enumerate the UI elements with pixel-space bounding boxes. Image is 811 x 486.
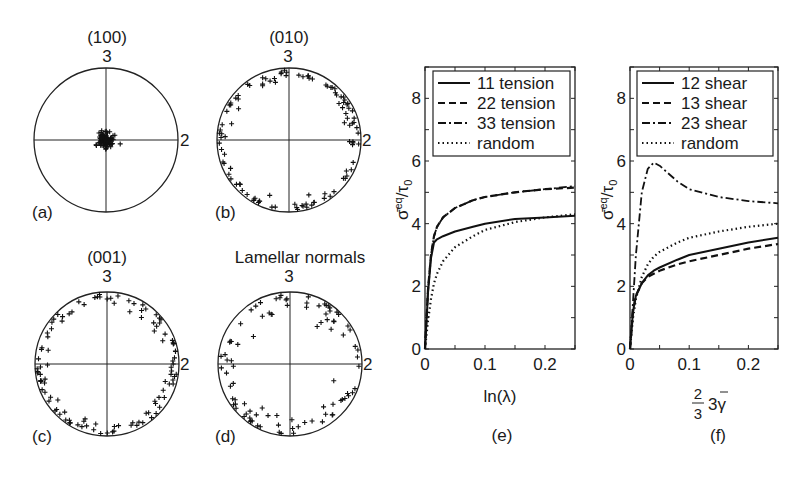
svg-text:2: 2 <box>412 277 421 296</box>
svg-text:0.2: 0.2 <box>533 355 557 374</box>
chart-e: 0246800.10.2 11 tension22 tension33 tens… <box>392 67 575 445</box>
svg-text:0: 0 <box>420 355 429 374</box>
legend-entry: 22 tension <box>477 94 555 113</box>
svg-text:2: 2 <box>617 277 626 296</box>
panel-label-e: (e) <box>492 426 513 445</box>
series-line <box>425 216 575 349</box>
pole-figure-b: (010) 3 2 (b) <box>215 28 371 222</box>
x-axis-label-f: 2 3 3γ <box>692 385 728 422</box>
series-lines-e <box>425 186 575 349</box>
legend-entry: 11 tension <box>477 74 554 93</box>
svg-text:0.1: 0.1 <box>677 355 701 374</box>
legend-entry: random <box>681 134 739 153</box>
y-axis-label-e: σ̄eq/τ0 <box>392 180 414 220</box>
pole-figure-c: (001) 3 2 (c) <box>32 248 189 446</box>
x-axis-label-e: ln(λ) <box>483 387 516 406</box>
y-axis-label-f: σ̄eq/τ0 <box>597 180 619 220</box>
svg-text:0.1: 0.1 <box>473 355 497 374</box>
series-line <box>425 186 575 349</box>
axis-label-2-d: 2 <box>363 355 372 374</box>
svg-text:4: 4 <box>412 215 421 234</box>
legend-entry: random <box>477 134 535 153</box>
pole-title-b: (010) <box>269 28 309 47</box>
chart-f: 0246800.10.2 12 shear13 shear23 shearran… <box>597 67 778 445</box>
pole-figure-d: Lamellar normals 3 2 (d) <box>215 248 372 446</box>
svg-text:6: 6 <box>617 152 626 171</box>
pole-title-a: (100) <box>87 28 127 47</box>
series-line <box>630 163 778 349</box>
svg-text:3γ: 3γ <box>708 395 726 414</box>
series-line <box>630 238 778 349</box>
legend-entry: 23 shear <box>681 114 747 133</box>
axis-label-2-c: 2 <box>180 355 189 374</box>
panel-label-f: (f) <box>710 426 726 445</box>
axis-label-2-b: 2 <box>362 131 371 150</box>
legend-f: 12 shear13 shear23 shearrandom <box>637 71 773 156</box>
legend-entry: 13 shear <box>681 94 747 113</box>
panel-label-c: (c) <box>32 427 52 446</box>
pole-title-c: (001) <box>87 248 127 267</box>
svg-text:6: 6 <box>412 152 421 171</box>
figure-canvas: (100) 3 2 (a) (010) 3 2 (b) (001) 3 2 (c… <box>0 0 811 486</box>
axis-label-3-a: 3 <box>102 47 111 66</box>
panel-label-d: (d) <box>215 427 236 446</box>
svg-text:8: 8 <box>617 89 626 108</box>
axis-label-3-c: 3 <box>102 267 111 286</box>
series-lines-f <box>630 163 778 349</box>
axis-label-2-a: 2 <box>180 131 189 150</box>
axis-label-3-d: 3 <box>284 267 293 286</box>
legend-e: 11 tension22 tension33 tensionrandom <box>433 71 570 156</box>
svg-text:3: 3 <box>694 405 702 422</box>
svg-text:4: 4 <box>617 215 626 234</box>
pole-title-d: Lamellar normals <box>235 248 365 267</box>
svg-text:0: 0 <box>625 355 634 374</box>
series-line <box>630 224 778 349</box>
panel-label-b: (b) <box>215 203 236 222</box>
axis-label-3-b: 3 <box>283 47 292 66</box>
legend-entry: 12 shear <box>681 74 747 93</box>
svg-text:8: 8 <box>412 89 421 108</box>
series-line <box>630 244 778 349</box>
legend-entry: 33 tension <box>477 114 555 133</box>
pole-figure-a: (100) 3 2 (a) <box>32 28 189 222</box>
series-line <box>425 188 575 349</box>
panel-label-a: (a) <box>32 203 53 222</box>
svg-text:2: 2 <box>694 385 702 402</box>
svg-text:0.2: 0.2 <box>737 355 761 374</box>
